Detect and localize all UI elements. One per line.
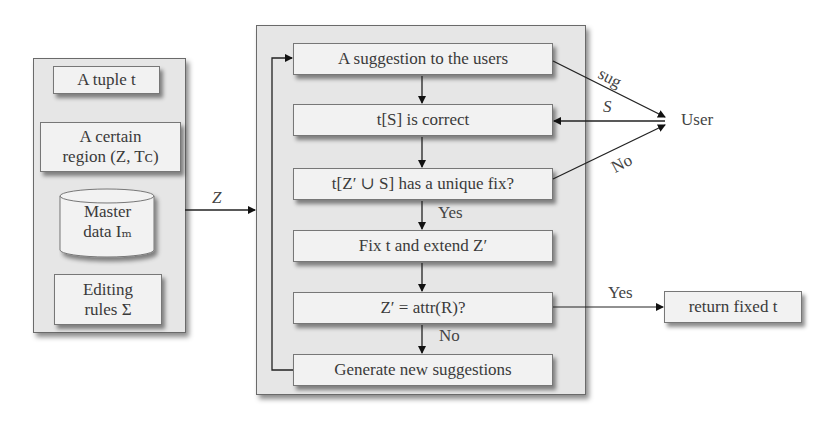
step-unique-fix: t[Z′ ∪ S] has a unique fix? bbox=[293, 168, 553, 200]
step-attr-check-label: Z′ = attr(R)? bbox=[380, 298, 465, 318]
edge-s-label: S bbox=[603, 97, 612, 117]
yes-label-unique: Yes bbox=[438, 203, 463, 223]
step-correct: t[S] is correct bbox=[293, 104, 553, 136]
master-data-label-2: data Iₘ bbox=[59, 222, 156, 242]
editing-rules-label-1: Editing bbox=[83, 280, 133, 300]
editing-rules-label-2: rules Σ bbox=[84, 300, 131, 320]
process-panel bbox=[256, 25, 586, 395]
region-label-2: region (Z, Tᴄ) bbox=[62, 147, 158, 167]
return-box: return fixed t bbox=[664, 291, 802, 323]
no-label-attr: No bbox=[439, 326, 460, 346]
edge-no-label: No bbox=[608, 150, 636, 177]
step-attr-check: Z′ = attr(R)? bbox=[293, 292, 553, 324]
master-data-label-1: Master bbox=[59, 202, 156, 222]
editing-rules-box: Editing rules Σ bbox=[54, 274, 162, 325]
certain-region-box: A certain region (Z, Tᴄ) bbox=[40, 122, 181, 172]
step-fix-extend-label: Fix t and extend Z′ bbox=[359, 236, 487, 256]
edge-sug-label: sug bbox=[595, 64, 625, 93]
master-data-cylinder: Master data Iₘ bbox=[59, 188, 156, 258]
tuple-box: A tuple t bbox=[53, 66, 160, 94]
step-suggestion-label: A suggestion to the users bbox=[338, 49, 508, 69]
step-generate: Generate new suggestions bbox=[293, 354, 553, 386]
user-label: User bbox=[681, 110, 713, 130]
region-label-1: A certain bbox=[80, 127, 142, 147]
tuple-label: A tuple t bbox=[77, 70, 136, 90]
step-fix-extend: Fix t and extend Z′ bbox=[293, 230, 553, 262]
return-label: return fixed t bbox=[689, 297, 778, 317]
step-suggestion: A suggestion to the users bbox=[293, 43, 553, 75]
yes-label-return: Yes bbox=[608, 283, 633, 303]
step-correct-label: t[S] is correct bbox=[377, 110, 470, 130]
z-arrow-label: Z bbox=[212, 188, 221, 208]
step-unique-fix-label: t[Z′ ∪ S] has a unique fix? bbox=[332, 174, 514, 194]
step-generate-label: Generate new suggestions bbox=[334, 360, 512, 380]
